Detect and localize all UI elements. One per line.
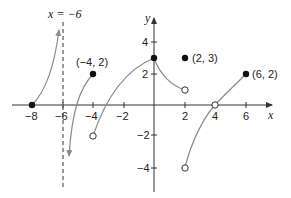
- x-tick-label: 6: [243, 110, 249, 122]
- x-tick-label: 2: [182, 110, 188, 122]
- y-axis-label: y: [144, 11, 151, 25]
- point-label-2-3: (2, 3): [192, 52, 218, 64]
- open-point-2-1: [182, 87, 188, 93]
- asymptote-label: x = −6: [47, 7, 82, 21]
- closed-point-6-2: [243, 71, 249, 77]
- y-tick-label: 2: [142, 68, 148, 80]
- x-tick-label: −8: [25, 110, 38, 122]
- point-label-neg4-2: (−4, 2): [76, 56, 108, 68]
- graph-canvas: −8 −6 −4 −2 2 4 6 4 2 −2 −4 x y x = −6 (…: [0, 0, 291, 198]
- closed-point-neg4-2: [90, 71, 96, 77]
- open-point-neg4-neg2: [90, 133, 96, 139]
- closed-point-2-3: [182, 55, 188, 61]
- closed-point-neg8-0: [29, 102, 35, 108]
- curve-piece-4: [154, 58, 185, 90]
- point-label-6-2: (6, 2): [252, 68, 278, 80]
- x-tick-label: −2: [116, 110, 129, 122]
- y-tick-label: 4: [142, 36, 148, 48]
- x-tick-label: −4: [85, 110, 98, 122]
- open-point-4-0: [212, 102, 218, 108]
- x-tick-label: 4: [212, 110, 218, 122]
- closed-point-0-3: [151, 55, 157, 61]
- curve-piece-1: [32, 30, 59, 105]
- y-tick-label: −2: [137, 129, 150, 141]
- x-tick-label: −6: [55, 110, 68, 122]
- open-point-2-neg4: [182, 165, 188, 171]
- y-tick-label: −4: [137, 162, 150, 174]
- x-axis-label: x: [267, 108, 274, 122]
